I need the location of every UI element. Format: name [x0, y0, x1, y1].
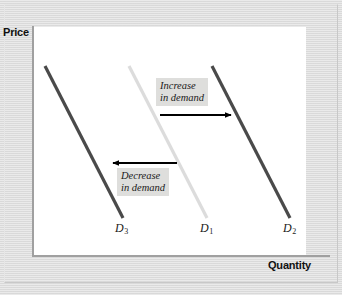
decrease-in-demand-label: Decrease in demand [117, 168, 169, 196]
curve-label-d3-sub: 3 [124, 227, 128, 236]
x-axis-label: Quantity [268, 259, 311, 272]
y-axis-line [32, 26, 34, 257]
curve-label-d2-base: D [283, 221, 292, 235]
decrease-line-1: Decrease [121, 170, 165, 182]
decrease-line-2: in demand [121, 182, 165, 194]
y-axis-label: Price [3, 26, 29, 39]
curve-label-d1-sub: 1 [209, 227, 213, 236]
demand-shift-figure: Price Quantity Increase in demand Decrea… [0, 0, 342, 295]
curve-label-d3-base: D [115, 221, 124, 235]
increase-line-1: Increase [160, 80, 204, 92]
curve-label-d1-base: D [200, 221, 209, 235]
curve-label-d2-sub: 2 [292, 227, 296, 236]
curve-label-d1: D1 [200, 221, 213, 236]
plot-area [34, 27, 306, 256]
x-axis-line [32, 255, 330, 257]
increase-in-demand-label: Increase in demand [156, 78, 208, 106]
curve-label-d2: D2 [283, 221, 296, 236]
increase-line-2: in demand [160, 92, 204, 104]
curve-label-d3: D3 [115, 221, 128, 236]
